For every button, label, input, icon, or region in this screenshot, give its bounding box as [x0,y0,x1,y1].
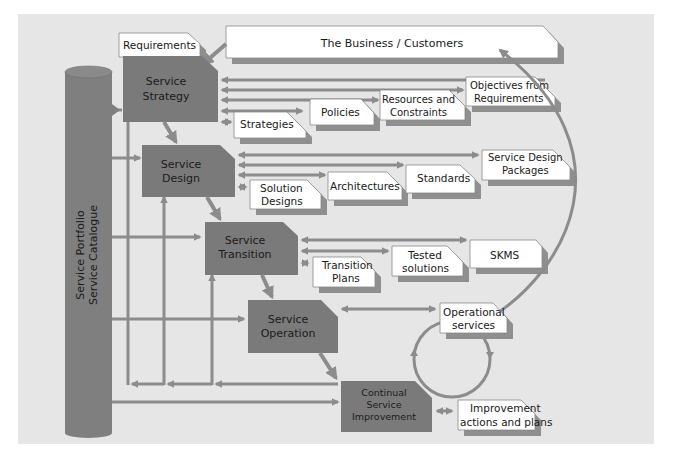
objectives-label-2: Requirements [474,93,544,104]
output-skms: SKMS [470,240,548,274]
resources-label-2: Constraints [390,107,447,118]
stage-csi-line1: Continual [361,387,406,398]
strategies-label: Strategies [240,118,294,130]
pillar-label-catalogue: Service Catalogue [87,205,100,305]
stage-service-design: Service Design [142,145,235,197]
stage-operation-line2: Operation [261,327,316,340]
stage-transition-line2: Transition [217,248,271,261]
stage-transition-line1: Service [225,234,266,247]
skms-label: SKMS [490,249,520,261]
resources-label-1: Resources and [382,94,455,105]
output-improvement-actions: Improvement actions and plans [458,400,552,436]
output-transition-plans: Transition Plans [313,257,381,293]
stage-csi-line2: Service [366,399,401,410]
architectures-label: Architectures [330,180,400,192]
tested-label-1: Tested [407,249,442,261]
stage-operation-line1: Service [268,313,309,326]
operational-label-2: services [452,319,495,331]
solution-designs-label-1: Solution [260,182,303,194]
pillar-label-portfolio: Service Portfolio [74,210,87,300]
operational-label-1: Operational [443,306,505,318]
transition-plans-label-1: Transition [321,259,373,271]
policies-label: Policies [321,106,360,118]
improvement-label-1: Improvement [470,402,541,414]
transition-plans-label-2: Plans [332,272,360,284]
solution-designs-label-2: Designs [261,195,303,207]
requirements-label: Requirements [123,39,196,51]
tested-label-2: solutions [402,262,449,274]
stage-design-line1: Service [161,158,202,171]
improvement-label-2: actions and plans [460,416,552,428]
stage-continual-service-improvement: Continual Service Improvement [341,381,432,432]
stage-service-transition: Service Transition [205,222,298,275]
stage-service-operation: Service Operation [248,300,338,353]
standards-label: Standards [417,172,470,184]
stage-strategy-line1: Service [146,75,187,88]
business-customers-box: The Business / Customers [226,26,564,64]
service-portfolio-pillar: Service Portfolio Service Catalogue [65,66,112,438]
output-service-design-packages: Service Design Packages [482,150,576,186]
sdp-label-1: Service Design [488,152,563,163]
service-lifecycle-diagram: The Business / Customers Requirements Se… [0,0,673,459]
stage-service-strategy: Service Strategy [123,56,218,122]
sdp-label-2: Packages [502,165,549,176]
stage-design-line2: Design [162,172,200,185]
stage-strategy-line2: Strategy [142,90,190,103]
output-operational-services: Operational services [440,303,513,339]
stage-csi-line3: Improvement [352,411,416,422]
business-customers-label: The Business / Customers [320,37,464,50]
